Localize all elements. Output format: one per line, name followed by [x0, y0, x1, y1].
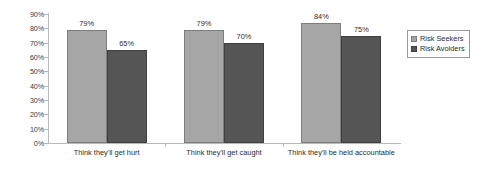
bar[interactable] [107, 50, 147, 143]
category-label: Think they'll get hurt [74, 148, 140, 157]
legend-swatch-icon [411, 46, 417, 52]
y-axis-tick-label: 20% [0, 110, 44, 119]
bar-group-bars: 84%75% [301, 14, 381, 143]
category-label: Think they'll get caught [186, 148, 261, 157]
legend-item-risk-avoiders: Risk Avoiders [411, 44, 465, 54]
bar-chart: 0%10%20%30%40%50%60%70%80%90% 79%65%79%7… [0, 0, 495, 169]
bar[interactable] [341, 36, 381, 144]
y-axis-tick-label: 50% [0, 67, 44, 76]
legend-swatch-icon [411, 36, 417, 42]
bar-value-label: 79% [67, 19, 107, 28]
y-axis-tick-label: 0% [0, 139, 44, 148]
legend-item-risk-seekers: Risk Seekers [411, 34, 465, 44]
legend-item-label: Risk Avoiders [420, 44, 465, 54]
legend-item-label: Risk Seekers [420, 34, 464, 44]
bar-value-label: 65% [107, 39, 147, 48]
category-separator-tick [283, 143, 284, 147]
y-axis-tick-label: 80% [0, 24, 44, 33]
bar-value-label: 75% [341, 25, 381, 34]
chart-legend: Risk Seekers Risk Avoiders [407, 30, 470, 58]
bar[interactable] [67, 30, 107, 143]
bar-slot: 79% [67, 14, 107, 143]
bar-value-label: 84% [301, 12, 341, 21]
bar-group: 79%65% [67, 14, 147, 143]
bar-group: 79%70% [184, 14, 264, 143]
y-axis-tick-label: 90% [0, 10, 44, 19]
bar-value-label: 70% [224, 32, 264, 41]
x-axis-line [48, 143, 401, 144]
bar[interactable] [301, 23, 341, 143]
category-separator-tick [165, 143, 166, 147]
y-axis-tick-label: 70% [0, 38, 44, 47]
bar-slot: 84% [301, 14, 341, 143]
bar-slot: 75% [341, 14, 381, 143]
bar[interactable] [224, 43, 264, 143]
bar-group: 84%75% [301, 14, 381, 143]
bar-group-bars: 79%70% [184, 14, 264, 143]
y-axis-tick-mark [44, 143, 48, 144]
y-axis-tick-label: 40% [0, 81, 44, 90]
bar[interactable] [184, 30, 224, 143]
bar-value-label: 79% [184, 19, 224, 28]
category-label: Think they'll be held accountable [288, 148, 395, 157]
y-axis-tick-label: 60% [0, 53, 44, 62]
bar-slot: 65% [107, 14, 147, 143]
y-axis-tick-label: 10% [0, 124, 44, 133]
bar-slot: 79% [184, 14, 224, 143]
bar-group-bars: 79%65% [67, 14, 147, 143]
plot-area: 79%65%79%70%84%75% [48, 14, 400, 143]
y-axis-tick-label: 30% [0, 96, 44, 105]
bar-slot: 70% [224, 14, 264, 143]
